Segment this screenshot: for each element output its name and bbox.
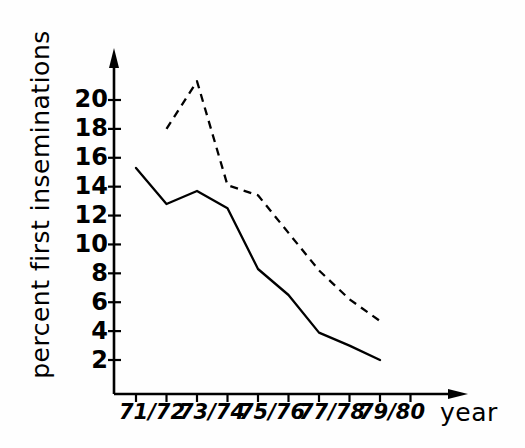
plot-area bbox=[0, 0, 525, 448]
y-axis-arrow-icon bbox=[109, 48, 119, 68]
series-line-dashed bbox=[167, 81, 381, 321]
x-axis-arrow-icon bbox=[448, 389, 468, 399]
chart-figure: percent first inseminations year 2 4 6 8… bbox=[0, 0, 525, 448]
axis-lines bbox=[109, 48, 468, 399]
